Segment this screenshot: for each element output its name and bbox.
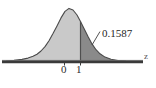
- tail-area-value-label: 0.1587: [102, 28, 132, 39]
- axis-tick-label-0: 0: [61, 64, 67, 75]
- axis-label-z: z: [144, 52, 148, 61]
- annotation-leader-line: [92, 32, 100, 46]
- axis-tick-label-1: 1: [76, 64, 82, 75]
- body-area-shaded-region: [6, 8, 81, 61]
- normal-distribution-figure: 0 1 z 0.1587: [0, 0, 156, 88]
